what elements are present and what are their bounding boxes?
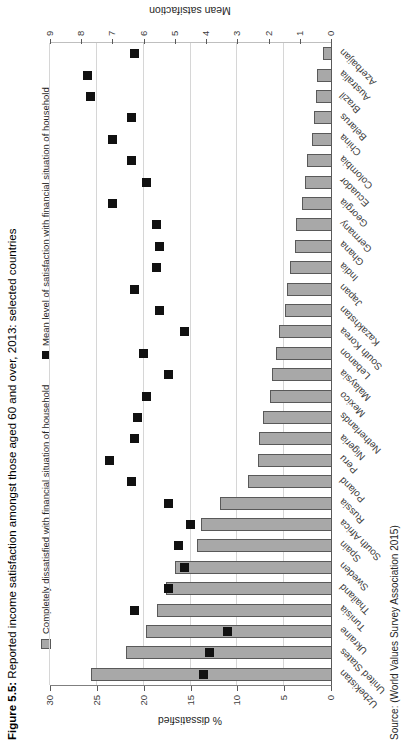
figure-title: Figure 5.5: Reported income satisfaction…	[6, 229, 18, 740]
secondary-tick-label: 5	[169, 31, 181, 36]
secondary-tick-mark	[50, 39, 51, 44]
primary-tick-mark	[284, 686, 285, 691]
mean-point-india	[152, 263, 161, 272]
primary-tick-mark	[144, 686, 145, 691]
source-citation: Source: (World Values Survey Association…	[389, 525, 400, 740]
bar-south-africa	[201, 518, 331, 531]
bar-georgia	[302, 197, 331, 210]
mean-point-ukraine	[223, 627, 232, 636]
mean-point-azerbaijan	[130, 49, 139, 58]
mean-point-germany	[152, 220, 161, 229]
mean-point-kazakhstan	[155, 306, 164, 315]
bar-colombia	[307, 154, 331, 167]
primary-tick-mark	[50, 686, 51, 691]
primary-tick-mark	[191, 686, 192, 691]
mean-point-brazil	[86, 92, 95, 101]
bar-thailand	[166, 582, 331, 595]
primary-tick-mark	[237, 686, 238, 691]
bar-germany	[296, 218, 331, 231]
secondary-tick-mark	[112, 39, 113, 44]
bar-kazakhstan	[285, 304, 331, 317]
secondary-tick-mark	[300, 39, 301, 44]
secondary-axis-title: Mean satsifaction	[130, 5, 250, 17]
mean-point-ghana	[155, 242, 164, 251]
bar-lebanon	[276, 347, 331, 360]
bar-india	[290, 261, 331, 274]
secondary-tick-mark	[206, 39, 207, 44]
secondary-tick-label: 7	[106, 31, 118, 36]
bar-poland	[248, 475, 331, 488]
bar-japan	[287, 283, 331, 296]
bar-malaysia	[272, 368, 331, 381]
mean-point-china	[108, 135, 117, 144]
mean-point-uzbekistan	[199, 670, 208, 679]
bar-azerbaijan	[323, 47, 331, 60]
figure-number: Figure 5.5:	[6, 682, 18, 740]
primary-axis-title: % dissatisfied	[130, 715, 250, 727]
bar-south-korea	[279, 325, 331, 338]
mean-point-united-states	[205, 648, 214, 657]
bar-ghana	[295, 240, 331, 253]
mean-point-south-korea	[180, 327, 189, 336]
mean-point-belarus	[127, 113, 136, 122]
mean-point-colombia	[127, 156, 136, 165]
mean-point-russia	[164, 499, 173, 508]
mean-point-georgia	[108, 199, 117, 208]
plot-area	[50, 42, 332, 686]
primary-tick-mark	[331, 686, 332, 691]
bar-ecuador	[305, 176, 331, 189]
primary-tick-label: 25	[91, 695, 103, 719]
secondary-tick-label: 0	[325, 31, 337, 36]
primary-tick-mark	[97, 686, 98, 691]
mean-point-lebanon	[139, 349, 148, 358]
secondary-tick-mark	[269, 39, 270, 44]
mean-point-poland	[127, 477, 136, 486]
gridline	[143, 43, 144, 685]
mean-point-mexico	[142, 392, 151, 401]
secondary-tick-label: 2	[263, 31, 275, 36]
rotated-chart-canvas: Figure 5.5: Reported income satisfaction…	[0, 0, 410, 753]
bar-belarus	[314, 111, 331, 124]
bar-ukraine	[146, 625, 331, 638]
secondary-tick-label: 1	[294, 31, 306, 36]
bar-australia	[317, 69, 331, 82]
primary-tick-label: 5	[278, 695, 290, 719]
secondary-tick-mark	[175, 39, 176, 44]
mean-point-australia	[83, 71, 92, 80]
bar-united-states	[126, 646, 331, 659]
mean-point-japan	[130, 285, 139, 294]
secondary-tick-mark	[81, 39, 82, 44]
primary-tick-label: 0	[325, 695, 337, 719]
mean-point-tunisia	[130, 606, 139, 615]
secondary-tick-label: 8	[75, 31, 87, 36]
mean-point-spain	[174, 541, 183, 550]
bar-netherlands	[263, 411, 331, 424]
bar-mexico	[270, 390, 331, 403]
mean-point-netherlands	[133, 413, 142, 422]
secondary-tick-label: 9	[44, 31, 56, 36]
secondary-tick-mark	[144, 39, 145, 44]
mean-point-south-africa	[186, 520, 195, 529]
bar-spain	[197, 539, 331, 552]
figure-title-text: Reported income satisfaction amongst tho…	[6, 229, 18, 682]
mean-point-sweden	[180, 563, 189, 572]
category-label-text: Japan	[337, 282, 364, 309]
gridline	[49, 43, 50, 685]
bar-peru	[258, 454, 331, 467]
mean-point-peru	[105, 456, 114, 465]
bar-tunisia	[157, 604, 331, 617]
bar-uzbekistan	[91, 668, 331, 681]
mean-point-malaysia	[164, 370, 173, 379]
mean-point-thailand	[164, 584, 173, 593]
secondary-tick-mark	[237, 39, 238, 44]
bar-brazil	[316, 90, 331, 103]
mean-point-nigeria	[130, 434, 139, 443]
secondary-tick-mark	[331, 39, 332, 44]
gridline	[96, 43, 97, 685]
bar-china	[312, 133, 331, 146]
primary-tick-label: 30	[44, 695, 56, 719]
secondary-tick-label: 3	[231, 31, 243, 36]
bar-nigeria	[259, 432, 331, 445]
secondary-tick-label: 6	[138, 31, 150, 36]
figure-page: Figure 5.5: Reported income satisfaction…	[0, 0, 410, 753]
